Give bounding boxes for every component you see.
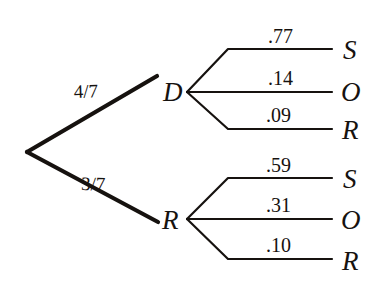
leaf-label-d-outcome-3: R [341,115,359,145]
probability-tree-diagram: 4/7 3/7 D .77 .14 .09 S O R R .59 .31 .1… [0,0,381,284]
node-label-d: D [162,77,183,107]
probability-label-d-2: .14 [268,67,293,89]
leaf-label-d-outcome-1: S [343,35,357,65]
probability-label-r-2: .31 [266,194,291,216]
fan-branch-r-outcome-3 [187,219,332,259]
leaf-label-r-outcome-1: S [343,164,357,194]
probability-label-r-1: .59 [266,154,291,176]
root-lower-probability-label: 3/7 [81,173,106,194]
probability-label-d-3: .09 [266,104,291,126]
fan-branch-r-outcome-1 [187,178,332,219]
fan-branch-d-outcome-3 [187,92,332,129]
leaf-label-d-outcome-2: O [341,77,361,107]
probability-label-r-3: .10 [266,234,291,256]
leaf-label-r-outcome-2: O [341,205,361,235]
leaf-label-r-outcome-3: R [341,246,359,276]
node-label-r: R [161,205,179,235]
probability-label-d-1: .77 [268,25,293,47]
fan-branch-d-outcome-1 [187,49,332,92]
root-upper-probability-label: 4/7 [73,80,98,102]
